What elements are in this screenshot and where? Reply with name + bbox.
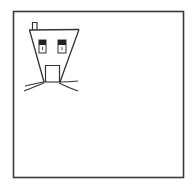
house-walls [30,30,80,83]
left-window [39,40,46,53]
door [46,66,60,83]
house-drawing [0,0,194,185]
chimney [33,23,38,31]
ground-lines [24,81,78,91]
roof-line [29,30,79,31]
right-window [58,40,66,53]
frame-border [14,12,184,178]
drawing-canvas [0,0,194,185]
